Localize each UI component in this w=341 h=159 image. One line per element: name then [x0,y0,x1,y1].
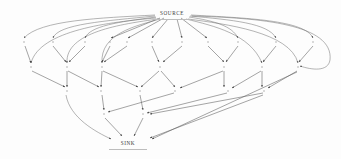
edges-to-sink [66,72,297,139]
edges-layer2-to-layer3 [32,71,297,88]
edges-source-to-layer2 [31,16,330,69]
source-underline [153,19,191,20]
layer1-nodes [23,41,313,42]
edges-layer3-to-layer4 [102,93,263,114]
graph-svg [0,0,341,159]
diagram-canvas: SOURCE SINK [0,0,341,159]
sink-underline [109,149,147,150]
sink-label: SINK [121,140,135,146]
source-label: SOURCE [160,10,184,16]
layer3-nodes [66,90,264,91]
layer4-nodes [103,113,143,114]
layer2-nodes [30,66,298,67]
